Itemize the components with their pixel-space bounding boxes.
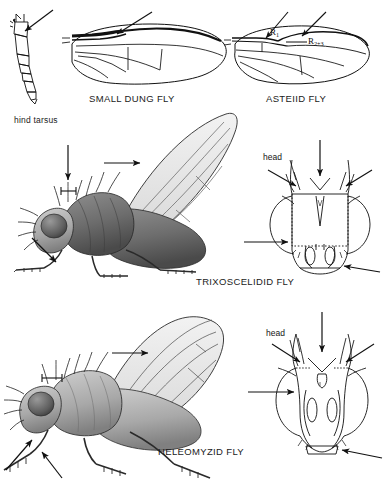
label-head-heleomyzid: head bbox=[266, 328, 285, 338]
asteiid-fly-wing-drawing bbox=[224, 26, 369, 84]
small-dung-fly-wing-drawing bbox=[62, 24, 226, 84]
caption-asteiid-fly: ASTEIID FLY bbox=[266, 93, 326, 104]
fly-identification-plate: hind tarsus SMALL DUNG FLY ASTEIID FLY T… bbox=[0, 0, 383, 504]
trixoscelidid-scale-bar bbox=[61, 187, 76, 195]
hind-tarsus-arrow bbox=[25, 10, 53, 31]
plate-artwork bbox=[0, 0, 383, 504]
heleomyzid-head-arrow-bottom-right bbox=[342, 450, 382, 458]
heleomyzid-scale-bar bbox=[42, 374, 62, 382]
caption-heleomyzid-fly: HELEOMYZID FLY bbox=[158, 446, 244, 457]
trixoscelidid-head-drawing bbox=[270, 160, 370, 274]
heleomyzid-arrow-leg bbox=[42, 452, 62, 478]
trixoscelidid-head-arrow-left-upper bbox=[268, 170, 296, 186]
vein-label-r23-subscript: 2+3 bbox=[314, 40, 324, 47]
vein-label-r1: R1 bbox=[270, 27, 279, 37]
trixoscelidid-head-arrow-bottom-right bbox=[344, 266, 380, 272]
hind-tarsus-drawing bbox=[10, 14, 37, 104]
vein-label-r23: R2+3 bbox=[308, 36, 324, 46]
vein-label-r1-subscript: 1 bbox=[276, 31, 279, 38]
caption-hind-tarsus: hind tarsus bbox=[14, 115, 58, 125]
caption-small-dung-fly: SMALL DUNG FLY bbox=[89, 93, 175, 104]
small-dung-fly-wing-arrow bbox=[117, 12, 152, 34]
caption-trixoscelidid-fly: TRIXOSCELIDID FLY bbox=[196, 276, 294, 287]
heleomyzid-head-arrow-left-upper bbox=[272, 344, 300, 362]
label-head-trixoscelidid: head bbox=[263, 152, 282, 162]
